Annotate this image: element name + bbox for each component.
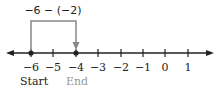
end-point bbox=[73, 50, 78, 55]
tick-label: −1 bbox=[135, 62, 151, 73]
down-arrow-icon bbox=[73, 42, 80, 50]
tick-label: −6 bbox=[23, 62, 39, 73]
bracket bbox=[31, 21, 76, 53]
tick-label: 0 bbox=[162, 62, 169, 73]
axis bbox=[6, 50, 214, 56]
left-arrow-icon bbox=[6, 50, 14, 56]
end-label: End bbox=[66, 76, 88, 87]
tick-label: −5 bbox=[45, 62, 61, 73]
start-point bbox=[28, 50, 33, 55]
expression-label: −6 − (−2) bbox=[24, 5, 81, 16]
tick-label: −2 bbox=[113, 62, 129, 73]
tick-label: −4 bbox=[68, 62, 84, 73]
right-arrow-icon bbox=[206, 50, 214, 56]
tick-label: −3 bbox=[90, 62, 106, 73]
start-label: Start bbox=[20, 76, 48, 87]
tick-label: 1 bbox=[185, 62, 192, 73]
